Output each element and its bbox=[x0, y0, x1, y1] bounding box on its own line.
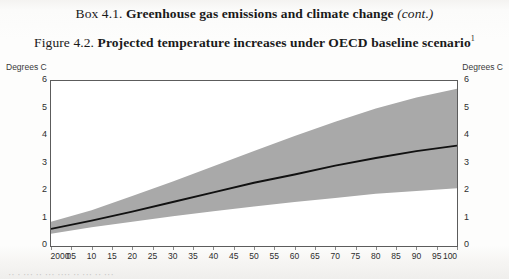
y-tick-label-left-2: 2 bbox=[27, 184, 47, 194]
x-tick-mark-80 bbox=[376, 247, 377, 250]
x-tick-mark-15 bbox=[112, 247, 113, 250]
y-tick-label-right-3: 3 bbox=[464, 157, 484, 167]
figure-heading: Figure 4.2. Projected temperature increa… bbox=[0, 30, 509, 51]
x-tick-label-65: 65 bbox=[310, 251, 319, 261]
figure-footnote-marker: 1 bbox=[471, 34, 475, 43]
y-tick-label-left-1: 1 bbox=[27, 212, 47, 222]
x-tick-label-70: 70 bbox=[330, 251, 339, 261]
x-tick-mark-05 bbox=[71, 247, 72, 250]
y-tick-label-left-5: 5 bbox=[27, 102, 47, 112]
x-tick-label-85: 85 bbox=[391, 251, 400, 261]
x-tick-mark-90 bbox=[416, 247, 417, 250]
y-tick-label-right-2: 2 bbox=[464, 184, 484, 194]
y-tick-label-right-4: 4 bbox=[464, 129, 484, 139]
y-tick-label-left-6: 6 bbox=[27, 74, 47, 84]
uncertainty-band bbox=[51, 89, 457, 234]
y-tick-label-left-0: 0 bbox=[27, 239, 47, 249]
box-heading: Box 4.1. Greenhouse gas emissions and cl… bbox=[0, 6, 509, 22]
x-tick-mark-70 bbox=[335, 247, 336, 250]
x-tick-label-15: 15 bbox=[107, 251, 116, 261]
figure-heading-title: Projected temperature increases under OE… bbox=[98, 35, 471, 50]
x-tick-label-45: 45 bbox=[229, 251, 238, 261]
x-tick-mark-45 bbox=[234, 247, 235, 250]
x-tick-label-80: 80 bbox=[371, 251, 380, 261]
x-tick-mark-2000 bbox=[51, 247, 52, 250]
plot-area bbox=[50, 80, 458, 247]
y-tick-label-left-3: 3 bbox=[27, 157, 47, 167]
x-tick-label-20: 20 bbox=[127, 251, 136, 261]
y-tick-label-right-5: 5 bbox=[464, 102, 484, 112]
x-tick-mark-35 bbox=[193, 247, 194, 250]
x-tick-label-05: 05 bbox=[67, 251, 76, 261]
y-tick-label-left-4: 4 bbox=[27, 129, 47, 139]
x-tick-label-50: 50 bbox=[249, 251, 258, 261]
x-tick-label-30: 30 bbox=[168, 251, 177, 261]
x-tick-mark-55 bbox=[274, 247, 275, 250]
x-tick-label-35: 35 bbox=[188, 251, 197, 261]
x-tick-mark-65 bbox=[315, 247, 316, 250]
x-tick-mark-95 bbox=[437, 247, 438, 250]
temperature-projection-chart: Degrees C Degrees C 00112233445566 20000… bbox=[0, 55, 509, 279]
plot-svg bbox=[51, 81, 457, 246]
x-tick-label-90: 90 bbox=[412, 251, 421, 261]
x-tick-label-60: 60 bbox=[290, 251, 299, 261]
x-tick-label-75: 75 bbox=[351, 251, 360, 261]
box-heading-cont: (cont.) bbox=[397, 6, 433, 21]
x-tick-label-100: 100 bbox=[443, 251, 457, 261]
x-tick-label-40: 40 bbox=[209, 251, 218, 261]
x-tick-mark-50 bbox=[254, 247, 255, 250]
x-tick-mark-30 bbox=[173, 247, 174, 250]
y-tick-label-right-0: 0 bbox=[464, 239, 484, 249]
x-tick-label-10: 10 bbox=[87, 251, 96, 261]
x-tick-mark-85 bbox=[396, 247, 397, 250]
box-heading-number: Box 4.1. bbox=[76, 6, 123, 21]
document-page: Box 4.1. Greenhouse gas emissions and cl… bbox=[0, 0, 509, 279]
y-tick-label-right-6: 6 bbox=[464, 74, 484, 84]
x-tick-mark-100 bbox=[457, 247, 458, 250]
x-tick-label-25: 25 bbox=[148, 251, 157, 261]
x-tick-mark-60 bbox=[295, 247, 296, 250]
y-tick-label-right-1: 1 bbox=[464, 212, 484, 222]
page-bottom-fragment: ·· · ··· ·· ··· ···· ·· ··· ·· ··· bbox=[0, 269, 509, 279]
x-tick-label-95: 95 bbox=[432, 251, 441, 261]
box-heading-title: Greenhouse gas emissions and climate cha… bbox=[126, 6, 394, 21]
x-tick-mark-20 bbox=[132, 247, 133, 250]
y-axis-title-right: Degrees C bbox=[462, 62, 503, 72]
x-tick-mark-40 bbox=[213, 247, 214, 250]
y-axis-title-left: Degrees C bbox=[6, 62, 47, 72]
x-tick-mark-75 bbox=[356, 247, 357, 250]
figure-heading-number: Figure 4.2. bbox=[34, 35, 94, 50]
x-tick-label-55: 55 bbox=[270, 251, 279, 261]
x-tick-mark-25 bbox=[153, 247, 154, 250]
x-tick-mark-10 bbox=[92, 247, 93, 250]
